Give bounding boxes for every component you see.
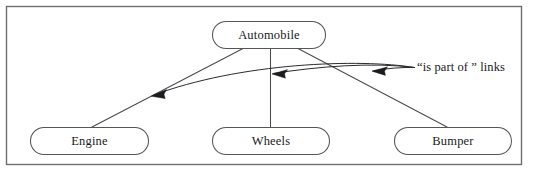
- part-of-pointer-engine: [153, 63, 415, 95]
- node-automobile[interactable]: Automobile: [213, 22, 326, 49]
- diagram-figure: Automobile Engine Wheels Bumper “is part…: [0, 0, 536, 177]
- node-engine[interactable]: Engine: [31, 128, 149, 155]
- node-bumper-label: Bumper: [432, 134, 474, 148]
- arrowhead-bumper-icon: [372, 67, 388, 76]
- node-wheels[interactable]: Wheels: [213, 128, 330, 155]
- semantic-network-canvas: Automobile Engine Wheels Bumper “is part…: [0, 0, 536, 177]
- node-automobile-label: Automobile: [238, 28, 300, 42]
- node-bumper[interactable]: Bumper: [395, 128, 512, 155]
- arrowhead-engine-icon: [151, 90, 166, 99]
- edge-automobile-engine: [92, 49, 243, 128]
- node-wheels-label: Wheels: [252, 134, 291, 148]
- part-of-annotation-label: “is part of ” links: [417, 60, 505, 74]
- arrowhead-wheels-icon: [272, 70, 288, 79]
- node-engine-label: Engine: [71, 134, 108, 148]
